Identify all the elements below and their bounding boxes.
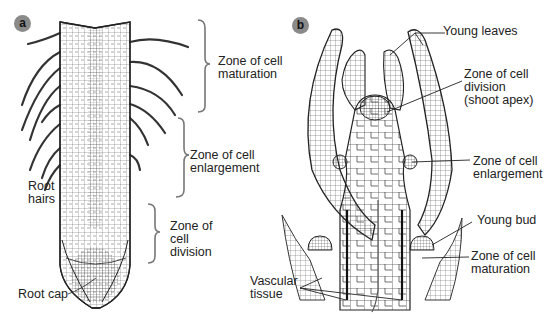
root-hairs-left — [22, 33, 60, 190]
label-root-hairs: Root hairs — [28, 180, 55, 206]
label-root-cap: Root cap — [18, 288, 68, 301]
meristem — [71, 247, 119, 303]
shoot-diagram — [282, 29, 472, 312]
outer-leaf-right — [408, 30, 452, 235]
root-hairs-right — [130, 39, 188, 170]
label-zone-division-a: Zone of cell division — [170, 220, 212, 259]
label-vascular-tissue: Vascular tissue — [250, 275, 298, 301]
young-bud-left — [308, 236, 332, 250]
label-young-bud: Young bud — [477, 214, 536, 227]
label-young-leaves: Young leaves — [443, 25, 518, 38]
label-zone-maturation-a: Zone of cell maturation — [218, 55, 283, 81]
shoot-stem — [340, 95, 410, 310]
panel-a-badge: a — [14, 15, 31, 32]
figure: a b Zone of cell maturation Zone of cell… — [0, 0, 557, 321]
label-zone-maturation-b: Zone of cell maturation — [471, 250, 536, 276]
label-zone-enlargement-b: Zone of cell enlargement — [473, 155, 543, 181]
panel-b-badge: b — [292, 17, 309, 34]
root-diagram — [22, 20, 210, 308]
label-zone-enlargement-a: Zone of cell enlargement — [190, 149, 260, 175]
shoot-apex — [360, 96, 390, 120]
label-zone-division-b: Zone of cell division (shoot apex) — [464, 68, 533, 107]
young-bud-right — [410, 236, 434, 250]
